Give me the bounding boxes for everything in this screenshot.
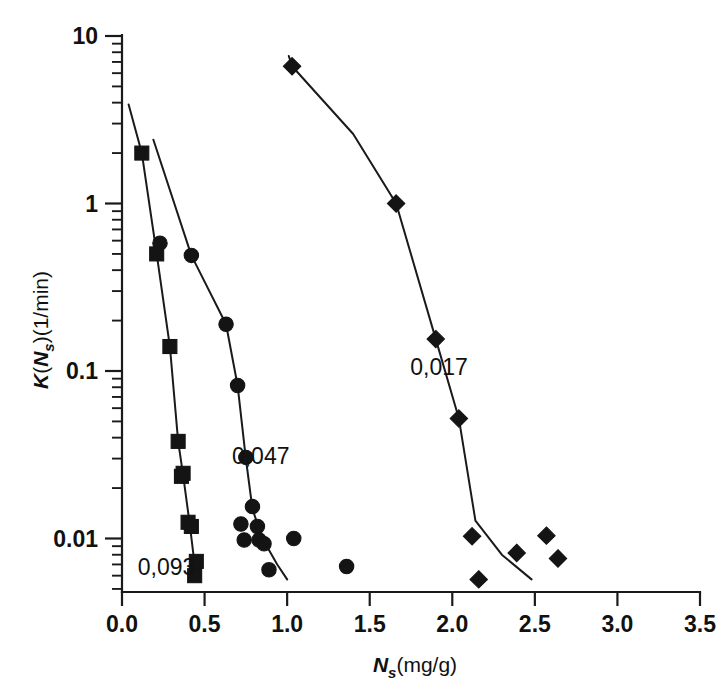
x-axis-title: Ns(mg/g)	[373, 653, 457, 681]
y-axis-title-subscript: s	[40, 343, 57, 351]
x-tick-label: 0.0	[106, 611, 138, 637]
x-tick-label: 2.0	[436, 611, 468, 637]
x-tick-label: 2.5	[519, 611, 551, 637]
x-tick-label: 1.5	[354, 611, 386, 637]
series-3	[283, 56, 566, 588]
data-point-circle	[230, 378, 244, 392]
y-tick-label: 0.01	[53, 526, 98, 552]
data-point-diamond	[387, 195, 404, 212]
series-curve	[153, 140, 287, 580]
series-annotation-3: 0,017	[410, 354, 468, 380]
data-point-circle	[262, 563, 276, 577]
series-annotation-2: 0,047	[232, 443, 290, 469]
x-axis-title-symbol: N	[373, 653, 389, 676]
data-point-circle	[237, 533, 251, 547]
data-point-diamond	[538, 527, 555, 544]
data-point-circle	[257, 537, 271, 551]
data-point-diamond	[450, 410, 467, 427]
series-curve	[289, 56, 532, 579]
data-point-circle	[184, 248, 198, 262]
data-point-diamond	[549, 550, 566, 567]
x-tick-label: 3.0	[601, 611, 633, 637]
data-point-circle	[250, 519, 264, 533]
data-point-diamond	[427, 330, 444, 347]
y-axis-title-close: )(1/min)	[29, 271, 52, 343]
data-point-square	[176, 466, 190, 480]
data-point-diamond	[470, 571, 487, 588]
tick-labels-group: 0.00.51.01.52.02.53.03.51010.10.01	[53, 23, 716, 637]
data-series-group	[129, 56, 567, 588]
y-axis-title-open: (	[29, 367, 52, 374]
x-tick-label: 1.0	[271, 611, 303, 637]
axes-group	[122, 35, 700, 592]
figure-container: 0.00.51.01.52.02.53.03.51010.10.01 0,093…	[0, 0, 726, 699]
y-tick-label: 0.1	[66, 358, 98, 384]
data-point-diamond	[463, 528, 480, 545]
chart-svg: 0.00.51.01.52.02.53.03.51010.10.01 0,093…	[0, 0, 726, 699]
data-point-circle	[245, 499, 259, 513]
data-point-circle	[153, 236, 167, 250]
y-axis-title-n: N	[29, 351, 52, 367]
x-tick-label: 0.5	[189, 611, 221, 637]
data-point-square	[163, 340, 177, 354]
data-point-circle	[234, 517, 248, 531]
data-point-square	[171, 434, 185, 448]
series-annotation-1: 0,093	[138, 554, 196, 580]
x-tick-label: 3.5	[684, 611, 716, 637]
x-axis-title-units: (mg/g)	[396, 653, 457, 676]
y-tick-label: 1	[85, 191, 98, 217]
data-point-circle	[287, 531, 301, 545]
y-tick-label: 10	[72, 23, 98, 49]
y-axis-title: K(Ns)(1/min)	[29, 271, 57, 389]
data-point-square	[184, 519, 198, 533]
data-point-circle	[219, 317, 233, 331]
data-point-diamond	[508, 544, 525, 561]
data-point-circle	[339, 559, 353, 573]
x-axis-title-subscript: s	[388, 664, 396, 681]
series-2	[153, 140, 354, 580]
data-point-square	[135, 146, 149, 160]
